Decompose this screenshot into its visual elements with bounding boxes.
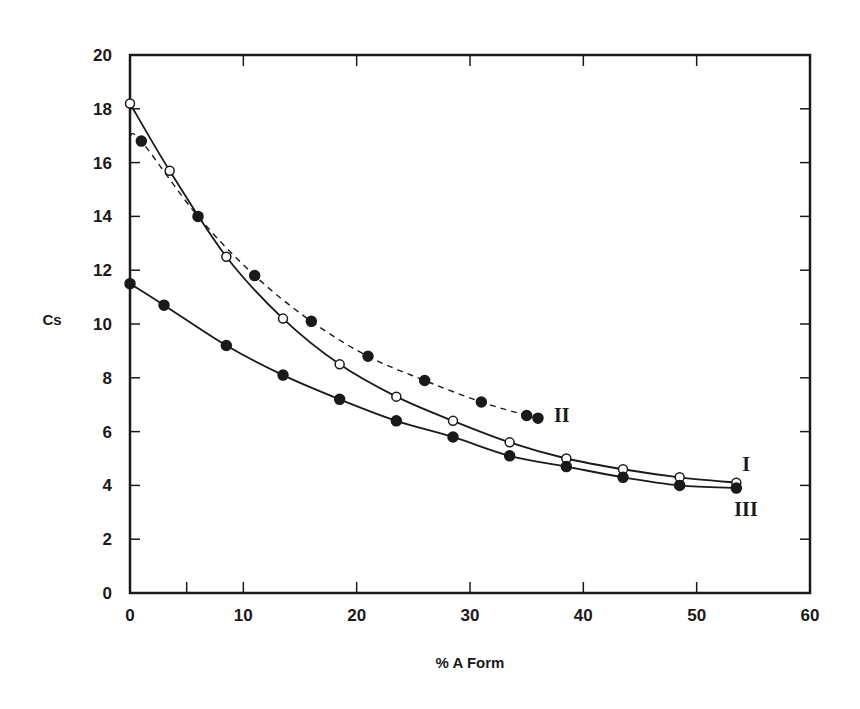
series-lines xyxy=(130,103,736,488)
series-label-II: II xyxy=(554,404,570,426)
series-markers xyxy=(125,99,741,493)
data-point-III xyxy=(335,394,345,404)
data-point-III xyxy=(505,451,515,461)
x-tick-label: 20 xyxy=(347,606,366,625)
y-tick-label: 18 xyxy=(93,100,112,119)
series-line-III xyxy=(130,284,736,488)
data-point-I xyxy=(126,99,135,108)
plot-frame xyxy=(130,55,810,593)
data-point-III xyxy=(278,370,288,380)
y-tick-label: 4 xyxy=(103,476,113,495)
y-tick-label: 0 xyxy=(103,584,112,603)
data-point-III xyxy=(731,483,741,493)
data-point-I xyxy=(392,392,401,401)
data-point-III xyxy=(448,432,458,442)
data-point-I xyxy=(165,166,174,175)
line-chart: 02468101214161820 0102030405060 IIIIII %… xyxy=(0,0,860,709)
y-tick-label: 12 xyxy=(93,261,112,280)
data-point-I xyxy=(279,314,288,323)
data-point-III xyxy=(125,279,135,289)
x-tick-label: 40 xyxy=(574,606,593,625)
data-point-III xyxy=(561,462,571,472)
x-tick-label: 60 xyxy=(801,606,820,625)
data-point-I xyxy=(449,416,458,425)
y-axis-title: Cs xyxy=(42,311,61,328)
series-line-II xyxy=(130,134,538,419)
series-label-III: III xyxy=(734,498,758,520)
x-axis: 0102030405060 xyxy=(125,55,819,625)
data-point-I xyxy=(222,252,231,261)
y-tick-label: 14 xyxy=(93,207,112,226)
data-point-II xyxy=(193,211,203,221)
data-point-II xyxy=(522,410,532,420)
data-point-III xyxy=(159,300,169,310)
data-point-III xyxy=(618,472,628,482)
x-tick-label: 0 xyxy=(125,606,134,625)
data-point-III xyxy=(675,480,685,490)
y-tick-label: 8 xyxy=(103,369,112,388)
x-tick-label: 30 xyxy=(461,606,480,625)
data-point-III xyxy=(391,416,401,426)
data-point-II xyxy=(420,375,430,385)
data-point-II xyxy=(533,413,543,423)
y-tick-label: 16 xyxy=(93,154,112,173)
data-point-II xyxy=(250,271,260,281)
y-tick-label: 6 xyxy=(103,423,112,442)
data-point-II xyxy=(363,351,373,361)
y-tick-label: 10 xyxy=(93,315,112,334)
data-point-II xyxy=(476,397,486,407)
x-tick-label: 50 xyxy=(687,606,706,625)
data-point-III xyxy=(221,341,231,351)
x-axis-title: % A Form xyxy=(436,654,505,671)
x-tick-label: 10 xyxy=(234,606,253,625)
y-tick-label: 20 xyxy=(93,46,112,65)
data-point-I xyxy=(335,360,344,369)
data-point-I xyxy=(505,438,514,447)
y-axis: 02468101214161820 xyxy=(93,46,810,603)
series-label-I: I xyxy=(742,453,750,475)
series-line-I xyxy=(130,103,736,482)
data-point-II xyxy=(136,136,146,146)
data-point-II xyxy=(306,316,316,326)
y-tick-label: 2 xyxy=(103,530,112,549)
